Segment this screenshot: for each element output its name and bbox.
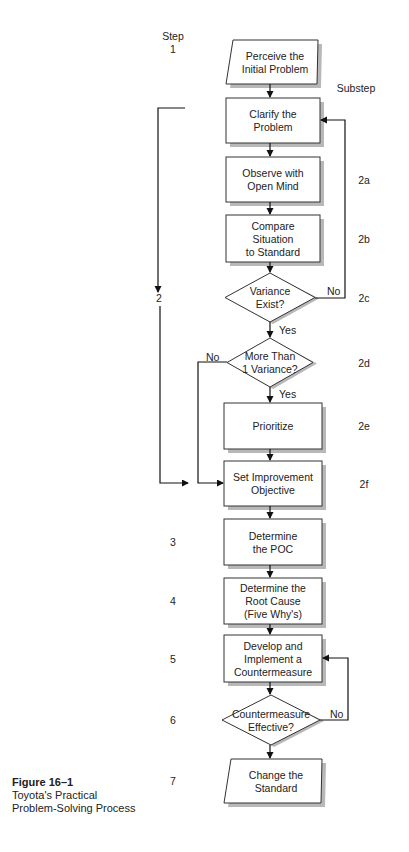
node-label: Countermeasure (234, 666, 312, 678)
node-label: (Five Why's) (244, 608, 302, 620)
substep-label: 2e (358, 420, 370, 432)
node-label: Variance (250, 285, 291, 297)
node-label: Exist? (256, 298, 285, 310)
node-label: Observe with (242, 167, 303, 179)
step-number: 5 (170, 653, 176, 665)
node-label: Develop and (244, 640, 303, 652)
node-label: Prioritize (253, 420, 294, 432)
step-number: 4 (170, 595, 176, 607)
step-number: 6 (170, 714, 176, 726)
step-number: 3 (170, 536, 176, 548)
node-label: to Standard (246, 246, 300, 258)
node-label: Countermeasure (232, 708, 310, 720)
substep-label: 2b (358, 233, 370, 245)
caption-line-1: Toyota's Practical (12, 789, 136, 802)
step-heading: Step (162, 30, 184, 42)
node-label: Determine (249, 530, 298, 542)
figure-caption: Figure 16–1 Toyota's Practical Problem-S… (12, 776, 136, 815)
substep-heading: Substep (337, 82, 376, 94)
flowchart: Perceive theInitial Problem1Clarify theP… (0, 0, 409, 852)
node-label: More Than (245, 350, 296, 362)
step-number: 7 (170, 775, 176, 787)
step-number: 2 (156, 292, 162, 304)
node-label: Open Mind (247, 180, 299, 192)
node-label: Initial Problem (242, 63, 309, 75)
node-label: Set Improvement (233, 471, 313, 483)
edge-label-variance-yes: Yes (279, 324, 296, 336)
edge-label-more-yes: Yes (279, 388, 296, 400)
node-label: Standard (255, 782, 298, 794)
node-label: Determine the (240, 582, 306, 594)
node-label: Situation (253, 233, 294, 245)
edge-label-variance-no: No (327, 285, 341, 297)
node-label: Implement a (244, 653, 302, 665)
edge-label-more-no: No (206, 351, 220, 363)
node-label: Change the (249, 769, 303, 781)
node-label: Objective (251, 484, 295, 496)
substep-label: 2a (358, 174, 370, 186)
node-label: Effective? (248, 721, 294, 733)
node-label: 1 Variance? (242, 363, 297, 375)
node-label: the POC (253, 543, 294, 555)
bypass-arrow-more-no (198, 362, 227, 483)
substep-label: 2c (358, 292, 369, 304)
step2-bracket-bottom (160, 306, 188, 483)
substep-label: 2f (360, 478, 369, 490)
figure-number: Figure 16–1 (12, 776, 136, 789)
caption-line-2: Problem-Solving Process (12, 802, 136, 815)
node-label: Compare (251, 220, 294, 232)
node-label: Problem (253, 121, 292, 133)
node-label: Perceive the (246, 50, 305, 62)
node-label: Clarify the (249, 108, 296, 120)
node-label: Root Cause (245, 595, 301, 607)
step2-bracket-top (158, 108, 185, 292)
substep-label: 2d (358, 357, 370, 369)
step-number: 1 (170, 43, 176, 55)
edge-label-effective-no: No (330, 708, 344, 720)
